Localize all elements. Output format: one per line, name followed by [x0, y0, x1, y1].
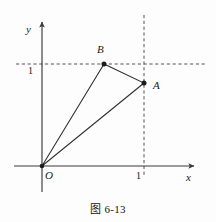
origin-label: O [45, 170, 53, 181]
point-label-a: A [153, 80, 160, 91]
point-B-marker [102, 62, 107, 67]
y-axis-label: y [26, 24, 31, 35]
figure-caption: 图 6-13 [0, 200, 216, 216]
figure-container: y x O A B 1 1 图 6-13 [0, 0, 216, 222]
point-A-marker [142, 81, 147, 86]
y-axis-tick-label-1: 1 [28, 66, 33, 76]
point-label-b: B [97, 44, 104, 55]
coordinate-plot [0, 0, 216, 222]
triangle-OBA [42, 64, 144, 166]
x-axis-label: x [186, 172, 191, 183]
point-O-marker [40, 164, 45, 169]
x-axis-tick-label-1: 1 [136, 171, 141, 181]
